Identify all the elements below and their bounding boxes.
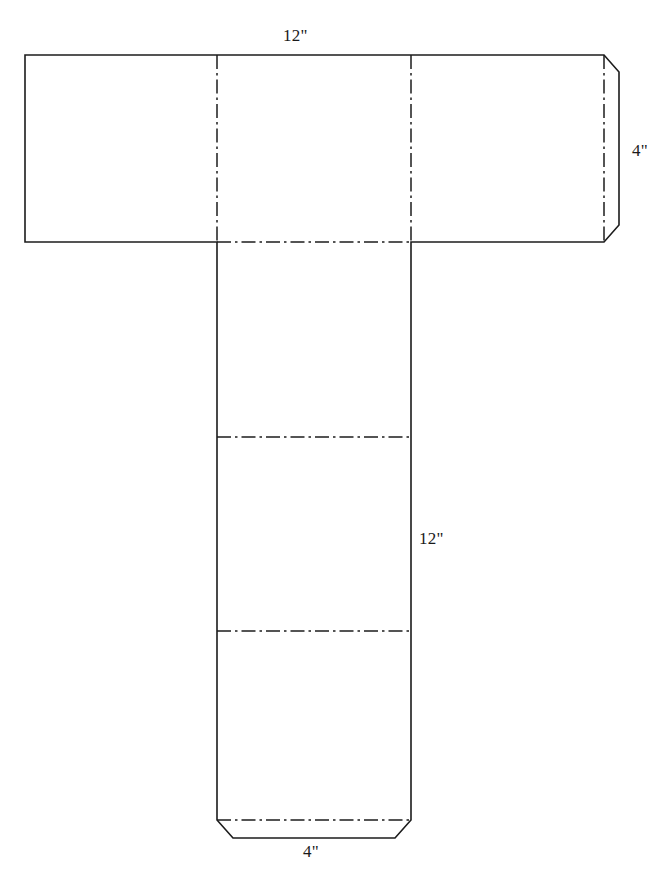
box-net-diagram: 12" 4" 12" 4" [0,0,672,880]
horizontal-band-fill [25,55,604,242]
right-glue-tab-fill [604,55,619,242]
dimension-label-top-width: 12" [283,27,308,44]
vertical-column-fill [217,242,411,820]
net-drawing-canvas [0,0,672,880]
dimension-label-bottom-width: 4" [303,843,319,860]
panel-fill-group [25,55,619,838]
dimension-label-column-height: 12" [419,530,444,547]
bottom-glue-tab-fill [217,820,411,838]
dimension-label-right-height: 4" [632,142,648,159]
